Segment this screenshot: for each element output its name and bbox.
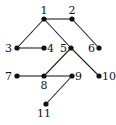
edge-1-3 <box>17 19 44 48</box>
labels-group: 1234567891011 <box>5 4 116 120</box>
edges-group <box>17 19 99 104</box>
node-3 <box>14 45 19 50</box>
node-4 <box>41 45 46 50</box>
node-6 <box>96 45 101 50</box>
node-8 <box>41 73 46 78</box>
node-label-2: 2 <box>69 4 76 17</box>
node-label-3: 3 <box>5 42 12 55</box>
node-label-9: 9 <box>75 70 82 83</box>
node-10 <box>96 73 101 78</box>
node-label-6: 6 <box>88 42 95 55</box>
edge-9-11 <box>46 76 72 104</box>
node-label-1: 1 <box>41 4 48 17</box>
node-label-11: 11 <box>37 107 51 120</box>
node-2 <box>69 16 74 21</box>
graph-diagram: 1234567891011 <box>0 0 116 125</box>
node-9 <box>69 73 74 78</box>
node-label-4: 4 <box>47 42 54 55</box>
node-label-10: 10 <box>102 70 116 83</box>
node-7 <box>14 73 19 78</box>
node-label-8: 8 <box>41 79 48 92</box>
node-label-7: 7 <box>5 70 12 83</box>
node-label-5: 5 <box>60 42 67 55</box>
node-5 <box>68 45 73 50</box>
node-1 <box>41 16 46 21</box>
node-11 <box>43 101 48 106</box>
